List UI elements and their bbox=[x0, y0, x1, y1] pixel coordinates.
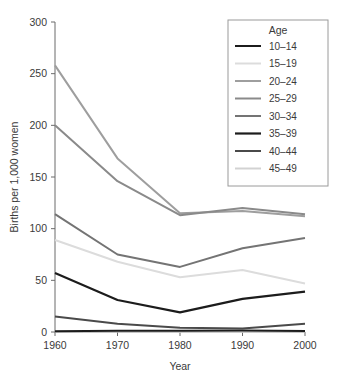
chart-canvas: 05010015020025030019601970198019902000Ye… bbox=[0, 0, 337, 384]
birth-rate-line-chart: 05010015020025030019601970198019902000Ye… bbox=[0, 0, 337, 384]
legend-label-45-49: 45–49 bbox=[269, 163, 297, 174]
legend-label-20-24: 20–24 bbox=[269, 76, 297, 87]
legend-label-15-19: 15–19 bbox=[269, 58, 297, 69]
legend-label-40-44: 40–44 bbox=[269, 146, 297, 157]
y-tick-label: 50 bbox=[35, 274, 47, 286]
y-axis-title: Births per 1,000 women bbox=[8, 121, 20, 232]
legend-label-35-39: 35–39 bbox=[269, 128, 297, 139]
y-tick-label: 0 bbox=[41, 326, 47, 338]
series-line-10-14 bbox=[55, 331, 305, 332]
y-tick-label: 100 bbox=[29, 222, 47, 234]
series-line-30-34 bbox=[55, 214, 305, 267]
y-tick-label: 250 bbox=[29, 67, 47, 79]
x-tick-label: 1970 bbox=[106, 339, 130, 351]
series-line-35-39 bbox=[55, 273, 305, 312]
y-tick-label: 150 bbox=[29, 171, 47, 183]
y-tick-label: 300 bbox=[29, 16, 47, 28]
legend-label-10-14: 10–14 bbox=[269, 41, 297, 52]
legend-title: Age bbox=[269, 24, 288, 36]
legend-label-30-34: 30–34 bbox=[269, 111, 297, 122]
x-axis-title: Year bbox=[169, 360, 191, 372]
series-line-15-19 bbox=[55, 240, 305, 283]
x-tick-label: 1990 bbox=[231, 339, 255, 351]
legend-label-25-29: 25–29 bbox=[269, 93, 297, 104]
x-tick-label: 1980 bbox=[168, 339, 192, 351]
series-line-40-44 bbox=[55, 317, 305, 329]
y-tick-label: 200 bbox=[29, 119, 47, 131]
x-tick-label: 2000 bbox=[293, 339, 317, 351]
x-tick-label: 1960 bbox=[43, 339, 67, 351]
